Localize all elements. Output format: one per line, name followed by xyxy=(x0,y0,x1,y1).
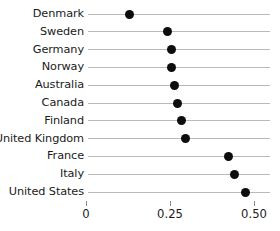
chart-row: Finland xyxy=(0,112,280,130)
data-point-marker xyxy=(181,134,190,143)
connector-line xyxy=(88,49,270,50)
data-point-marker xyxy=(125,10,134,19)
data-point-marker xyxy=(241,188,250,197)
category-label: Sweden xyxy=(0,23,84,41)
category-label: United States xyxy=(0,183,84,201)
x-axis-tick xyxy=(254,201,255,206)
chart-row: United Kingdom xyxy=(0,130,280,148)
connector-line xyxy=(88,156,270,157)
connector-line xyxy=(88,14,270,15)
chart-row: Italy xyxy=(0,165,280,183)
data-point-marker xyxy=(224,152,233,161)
x-axis-tick-label: 0.25 xyxy=(140,207,200,221)
category-label: Australia xyxy=(0,76,84,94)
connector-line xyxy=(88,67,270,68)
chart-row: United States xyxy=(0,183,280,201)
category-label: United Kingdom xyxy=(0,130,84,148)
chart-row: France xyxy=(0,147,280,165)
x-axis-tick xyxy=(170,201,171,206)
plot-area: DenmarkSwedenGermanyNorwayAustraliaCanad… xyxy=(0,0,280,200)
chart-row: Sweden xyxy=(0,23,280,41)
chart-row: Canada xyxy=(0,94,280,112)
data-point-marker xyxy=(167,45,176,54)
category-label: Germany xyxy=(0,41,84,59)
data-point-marker xyxy=(230,170,239,179)
dot-plot-chart: DenmarkSwedenGermanyNorwayAustraliaCanad… xyxy=(0,0,280,231)
chart-row: Germany xyxy=(0,41,280,59)
data-point-marker xyxy=(177,116,186,125)
connector-line xyxy=(88,85,270,86)
category-label: Canada xyxy=(0,94,84,112)
x-axis-tick xyxy=(86,201,87,206)
data-point-marker xyxy=(173,99,182,108)
x-axis: 00.250.50 xyxy=(0,200,280,231)
data-point-marker xyxy=(170,81,179,90)
category-label: Norway xyxy=(0,58,84,76)
connector-line xyxy=(88,138,270,139)
category-label: Finland xyxy=(0,112,84,130)
category-label: Italy xyxy=(0,165,84,183)
x-axis-tick-label: 0 xyxy=(56,207,116,221)
chart-row: Norway xyxy=(0,58,280,76)
category-label: France xyxy=(0,147,84,165)
connector-line xyxy=(88,31,270,32)
chart-row: Australia xyxy=(0,76,280,94)
chart-row: Denmark xyxy=(0,5,280,23)
data-point-marker xyxy=(167,63,176,72)
x-axis-tick-label: 0.50 xyxy=(224,207,280,221)
category-label: Denmark xyxy=(0,5,84,23)
connector-line xyxy=(88,174,270,175)
data-point-marker xyxy=(163,27,172,36)
